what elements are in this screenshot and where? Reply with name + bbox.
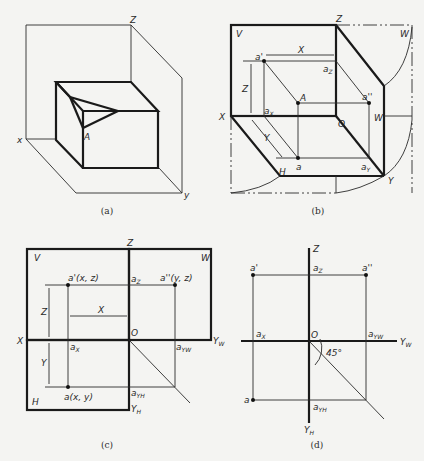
panel-c-v-plane <box>27 249 129 340</box>
panel-c-label-ayw: aYW <box>176 342 192 353</box>
panel-d-label-ax: aX <box>256 329 267 340</box>
panel-b-rotation-arc-w2 <box>384 120 412 176</box>
panel-a-caption: (a) <box>101 206 113 216</box>
panel-b-dim-x-label: X <box>297 45 305 55</box>
panel-b-rotation-arc-h <box>336 176 384 193</box>
panel-d-label-o: O <box>311 330 318 340</box>
panel-d-point-a-front <box>251 273 255 277</box>
panel-c-label-w: W <box>201 253 211 263</box>
panel-d-label-a-top: a <box>244 395 250 405</box>
panel-b-label-big-a: A <box>299 93 306 103</box>
panel-b-label-x: X <box>218 112 226 122</box>
panel-b-label-h: H <box>279 167 286 177</box>
panel-c-dim-y-label: Y <box>41 358 48 368</box>
panel-b-proj-front-a <box>264 61 298 103</box>
panel-b-point-a-top <box>296 156 300 160</box>
panel-c-label-ax: aX <box>70 342 81 353</box>
panel-d-label-yw: YW <box>400 337 413 348</box>
panel-b: Z X Y O V H W W a' A a'' a aZ aX aY X Z … <box>218 14 412 216</box>
panel-d-label-yh: YH <box>304 425 315 436</box>
panel-d: Z O YW YH a' a'' a aZ aX aYW aYH 45° (d) <box>241 244 413 450</box>
panel-b-label-z: Z <box>335 14 343 24</box>
panel-d-label-a-front: a' <box>250 263 258 273</box>
panel-c-label-z: Z <box>126 238 134 248</box>
panel-c-label-h: H <box>32 397 39 407</box>
panel-b-label-a-top: a <box>296 162 302 172</box>
panel-d-point-a-side <box>364 273 368 277</box>
panel-b-label-v: V <box>236 29 243 39</box>
panel-b-label-a-front: a' <box>255 52 263 62</box>
panel-c-point-a-top <box>66 385 70 389</box>
panel-c-caption: (c) <box>101 440 113 450</box>
panel-b-rotation-arc-h2 <box>231 176 280 193</box>
panel-d-label-a-side: a'' <box>362 263 372 273</box>
panel-c-label-x: X <box>16 336 24 346</box>
panel-c-point-a-front <box>66 283 70 287</box>
panel-d-point-a-top <box>251 398 255 402</box>
panel-c-label-a-top: a(x, y) <box>64 392 93 402</box>
panel-b-label-ay: aY <box>361 162 372 173</box>
panel-a-label-z: Z <box>129 15 137 25</box>
panel-a-y-axis <box>159 168 182 193</box>
panel-b-dim-z-label: Z <box>241 84 249 94</box>
panel-b-label-ax: aX <box>264 106 275 117</box>
panel-a: Z x y A (a) <box>16 15 190 216</box>
panel-c-point-a-side <box>173 283 177 287</box>
panel-c-dim-x-label: X <box>97 305 105 315</box>
panel-a-label-y: y <box>183 190 190 200</box>
panel-c-label-ayh: aYH <box>131 388 145 399</box>
panel-a-block-front <box>83 111 158 168</box>
panel-d-angle-arc <box>315 339 322 365</box>
panel-d-label-az: aZ <box>313 263 324 274</box>
panel-d-label-z: Z <box>312 244 320 254</box>
panel-c-label-yw: YW <box>213 336 226 347</box>
panel-a-cut-edge-2 <box>83 111 118 128</box>
panel-b-w-plane <box>336 25 384 176</box>
panel-b-label-a-side: a'' <box>362 92 372 102</box>
panel-b-label-w-top: W <box>400 29 410 39</box>
panel-b-label-o: O <box>338 119 345 129</box>
panel-a-cut-edge <box>70 97 83 128</box>
panel-c: Z X O V W H YW YH a'(x, z) a''(y, z) a(x… <box>16 238 226 450</box>
panel-b-v-plane <box>231 25 336 116</box>
panel-b-label-y: Y <box>388 176 395 186</box>
panel-c-label-o: O <box>131 328 138 338</box>
panel-a-label-point-a: A <box>83 132 90 142</box>
panel-b-label-az: aZ <box>323 64 334 75</box>
panel-c-dim-z-label: Z <box>40 307 48 317</box>
panel-a-label-x: x <box>16 135 23 145</box>
panel-c-label-az: aZ <box>131 274 142 285</box>
panel-d-label-ayw: aYW <box>368 329 384 340</box>
panel-b-label-w-mid: W <box>374 113 384 123</box>
panel-d-angle-label: 45° <box>326 348 342 358</box>
panel-c-label-a-side: a''(y, z) <box>160 273 193 283</box>
panel-c-label-v: V <box>34 253 41 263</box>
panel-d-caption: (d) <box>311 440 324 450</box>
panel-c-w-plane <box>129 249 211 340</box>
orthographic-projection-figure: Z x y A (a) <box>0 0 424 461</box>
panel-c-label-a-front: a'(x, z) <box>68 273 99 283</box>
panel-b-caption: (b) <box>312 206 325 216</box>
panel-c-label-yh: YH <box>131 404 142 415</box>
panel-a-cut-corner <box>56 82 118 111</box>
panel-d-label-ayh: aYH <box>313 402 327 413</box>
